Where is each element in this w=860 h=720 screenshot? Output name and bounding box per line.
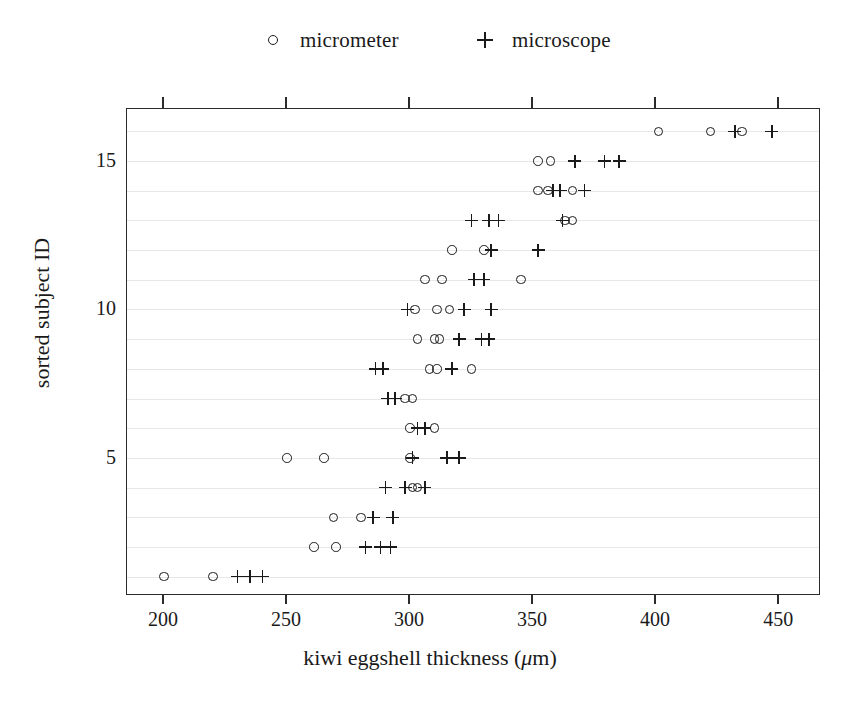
gridline (127, 161, 819, 162)
legend-label-micrometer: micrometer (300, 30, 399, 51)
plot-area (127, 109, 819, 594)
gridline (127, 309, 819, 310)
x-axis-tick-label: 300 (394, 608, 424, 631)
circle-marker-icon (260, 27, 286, 53)
x-axis-title-prefix: kiwi eggshell thickness ( (303, 645, 521, 670)
x-axis-tick-top (162, 97, 164, 108)
gridline (127, 339, 819, 340)
gridline (127, 250, 819, 251)
scatter-plot-figure: micrometer microscope 200250300350400450… (0, 0, 860, 720)
y-axis-title: sorted subject ID (29, 163, 55, 463)
legend-label-microscope: microscope (512, 30, 611, 51)
x-axis-tick-label: 200 (148, 608, 178, 631)
x-axis-tick-top (531, 97, 533, 108)
plus-marker-icon (472, 27, 498, 53)
x-axis-title-suffix: m) (532, 645, 556, 670)
gridline (127, 399, 819, 400)
x-axis-tick (654, 595, 656, 604)
y-axis-tick-label: 5 (86, 445, 116, 468)
x-axis-title: kiwi eggshell thickness (μm) (0, 645, 860, 671)
x-axis-tick (531, 595, 533, 604)
gridline (127, 547, 819, 548)
x-axis-tick-label: 400 (640, 608, 670, 631)
y-axis-tick-label: 15 (86, 149, 116, 172)
legend-item-micrometer: micrometer (260, 18, 399, 62)
x-axis-tick-top (285, 97, 287, 108)
x-axis-tick (285, 595, 287, 604)
x-axis-tick (408, 595, 410, 604)
gridline (127, 428, 819, 429)
x-axis-tick-top (777, 97, 779, 108)
x-axis-tick-label: 450 (763, 608, 793, 631)
gridline (127, 488, 819, 489)
chart-legend: micrometer microscope (260, 18, 660, 62)
x-axis-title-mu: μ (521, 645, 532, 670)
gridline (127, 131, 819, 132)
legend-item-microscope: microscope (472, 18, 611, 62)
x-axis-tick (777, 595, 779, 604)
gridline (127, 191, 819, 192)
x-axis-tick-label: 350 (517, 608, 547, 631)
x-axis-tick-top (654, 97, 656, 108)
y-axis-tick-label: 10 (86, 297, 116, 320)
x-axis-tick (162, 595, 164, 604)
gridline (127, 458, 819, 459)
gridline (127, 517, 819, 518)
plot-frame (126, 108, 820, 595)
x-axis-tick-label: 250 (271, 608, 301, 631)
x-axis-tick-top (408, 97, 410, 108)
